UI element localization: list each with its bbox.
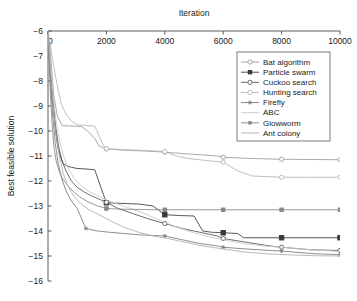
y-axis-tick-label: −10 — [29, 126, 44, 136]
series-marker — [221, 231, 225, 235]
series-marker — [163, 149, 167, 153]
y-axis-tick-label: −12 — [29, 176, 44, 186]
series-marker — [338, 175, 342, 179]
series-marker — [338, 158, 342, 162]
legend-label: ABC — [263, 108, 280, 117]
series-marker — [221, 160, 225, 164]
legend-label: Glowworm — [263, 119, 301, 128]
x-axis-tick-label: 6000 — [214, 36, 233, 46]
series-marker — [338, 208, 341, 211]
legend-label: Ant colony — [263, 129, 300, 138]
y-axis-tick-label: −7 — [33, 51, 43, 61]
series-marker — [338, 236, 342, 240]
legend-label: Bat algorithm — [263, 58, 310, 67]
y-axis-tick-label: −13 — [29, 201, 44, 211]
x-axis-tick-label: 8000 — [272, 36, 291, 46]
chart-figure: 0200040006000800010000−6−7−8−9−10−11−12−… — [0, 0, 357, 301]
y-axis-tick-label: −14 — [29, 226, 44, 236]
series-marker — [104, 146, 108, 150]
legend-marker-sample — [248, 90, 252, 94]
series-marker — [280, 175, 284, 179]
y-axis-tick-label: −6 — [33, 26, 43, 36]
legend-marker-sample — [248, 80, 252, 84]
legend-label: Firefly — [263, 98, 285, 107]
series-marker — [163, 208, 166, 211]
y-axis-tick-label: −16 — [29, 276, 44, 286]
x-axis-title: Iteration — [179, 8, 210, 18]
series-marker — [222, 208, 225, 211]
legend-marker-sample — [248, 60, 252, 64]
series-marker — [280, 208, 283, 211]
legend-marker-sample — [248, 100, 252, 104]
x-axis-tick-label: 4000 — [155, 36, 174, 46]
series-marker — [279, 236, 283, 240]
series-marker — [280, 157, 284, 161]
legend-marker-sample — [248, 70, 252, 74]
series-marker — [84, 226, 88, 230]
x-axis-tick-label: 2000 — [97, 36, 116, 46]
series-marker — [163, 213, 167, 217]
convergence-line-chart: 0200040006000800010000−6−7−8−9−10−11−12−… — [0, 0, 357, 301]
legend-label: Cuckoo search — [263, 78, 316, 87]
y-axis-tick-label: −9 — [33, 101, 43, 111]
y-axis-tick-label: −8 — [33, 76, 43, 86]
legend-label: Particle swarm — [263, 68, 316, 77]
series-marker — [338, 248, 342, 252]
y-axis-tick-label: −15 — [29, 251, 44, 261]
series-marker — [221, 155, 225, 159]
x-axis-tick-label: 10000 — [328, 36, 352, 46]
series-marker — [280, 249, 284, 253]
y-axis-tick-label: −11 — [29, 151, 43, 161]
legend-label: Hunting search — [263, 88, 317, 97]
series-marker — [105, 207, 108, 210]
y-axis-title: Best feasible solution — [6, 116, 16, 197]
legend-marker-sample — [248, 121, 251, 124]
